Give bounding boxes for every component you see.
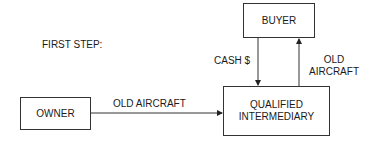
old-aircraft-up-line1: OLD [309, 54, 359, 66]
step-label: FIRST STEP: [42, 39, 102, 51]
owner-label: OWNER [36, 108, 74, 120]
cash-label: CASH $ [214, 55, 250, 67]
old-aircraft-up-label: OLD AIRCRAFT [309, 54, 359, 78]
old-aircraft-up-line2: AIRCRAFT [309, 66, 359, 78]
qi-label-line1: QUALIFIED [250, 99, 303, 111]
qualified-intermediary-node: QUALIFIED INTERMEDIARY [223, 86, 330, 136]
buyer-node: BUYER [243, 3, 315, 38]
owner-node: OWNER [20, 97, 91, 130]
buyer-label: BUYER [262, 15, 296, 27]
qi-label-line2: INTERMEDIARY [239, 111, 314, 123]
old-aircraft-right-label: OLD AIRCRAFT [113, 98, 186, 110]
